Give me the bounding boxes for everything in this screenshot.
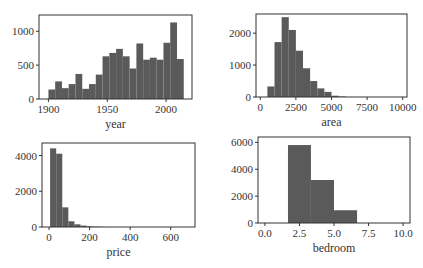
histogram-bar <box>103 56 110 99</box>
subplot-area: 025005000750010000010002000area <box>229 14 417 129</box>
x-tick-label: 400 <box>122 231 139 243</box>
area-bars <box>267 17 345 97</box>
histogram-bar <box>282 17 289 97</box>
x-tick-label: 5.0 <box>327 227 341 239</box>
histogram-bar <box>157 60 164 99</box>
histogram-bar <box>150 58 157 99</box>
histogram-bar <box>116 49 123 99</box>
x-tick-label: 5000 <box>321 101 344 113</box>
x-tick-label: 7500 <box>356 101 379 113</box>
x-tick-label: 200 <box>81 231 98 243</box>
y-tick-label: 4000 <box>15 150 38 162</box>
y-tick-label: 2000 <box>231 190 254 202</box>
histogram-bar <box>267 86 274 97</box>
histogram-bar <box>170 22 177 99</box>
histogram-bar <box>136 43 143 99</box>
histogram-bar <box>288 145 311 223</box>
y-tick-label: 0 <box>248 217 254 229</box>
x-tick-label: 0 <box>46 231 52 243</box>
histogram-bar <box>68 221 74 227</box>
y-tick-label: 0 <box>32 221 38 233</box>
subplot-year: 19001950200005001000year <box>12 15 192 131</box>
y-tick-label: 2000 <box>15 185 38 197</box>
price-x-axis-label: price <box>107 245 131 259</box>
x-tick-label: 0 <box>258 101 264 113</box>
histogram-bar <box>82 89 89 99</box>
histogram-bar <box>317 88 324 97</box>
histogram-bar <box>303 68 310 97</box>
bedroom-bars <box>288 145 357 223</box>
x-tick-label: 2500 <box>285 101 308 113</box>
y-tick-label: 6000 <box>231 136 254 148</box>
histogram-figure: 19001950200005001000year 025005000750010… <box>0 0 423 268</box>
year-x-axis-label: year <box>105 117 126 131</box>
y-tick-label: 2000 <box>229 27 252 39</box>
histogram-bar <box>311 180 334 223</box>
histogram-bar <box>48 90 55 99</box>
x-tick-label: 2000 <box>155 103 178 115</box>
x-tick-label: 1950 <box>96 103 119 115</box>
histogram-bar <box>56 154 62 227</box>
y-tick-label: 500 <box>18 59 35 71</box>
histogram-bar <box>275 42 282 97</box>
histogram-bar <box>296 51 303 97</box>
x-tick-label: 7.5 <box>362 227 376 239</box>
area-x-axis-label: area <box>322 115 343 129</box>
x-tick-label: 1900 <box>37 103 60 115</box>
subplot-price: 0200400600020004000price <box>15 143 195 259</box>
histogram-bar <box>109 53 116 99</box>
year-bars <box>48 22 183 99</box>
histogram-bar <box>62 207 68 227</box>
y-tick-label: 0 <box>29 93 35 105</box>
price-bars <box>50 148 105 227</box>
histogram-bar <box>289 30 296 97</box>
bedroom-x-axis-label: bedroom <box>313 241 356 255</box>
x-tick-label: 0.0 <box>258 227 272 239</box>
subplot-bedroom: 0.02.55.07.510.00200040006000bedroom <box>231 136 413 255</box>
histogram-bar <box>123 56 130 99</box>
x-tick-label: 10000 <box>389 101 417 113</box>
x-tick-label: 10.0 <box>393 227 413 239</box>
histogram-bar <box>75 74 82 99</box>
histogram-bar <box>50 148 56 227</box>
y-tick-label: 1000 <box>229 59 252 71</box>
histogram-bar <box>89 84 96 99</box>
histogram-bar <box>310 81 317 97</box>
histogram-bar <box>69 84 76 99</box>
x-tick-label: 2.5 <box>293 227 307 239</box>
histogram-bar <box>177 59 184 99</box>
y-tick-label: 0 <box>246 91 252 103</box>
x-tick-label: 600 <box>162 231 179 243</box>
y-tick-label: 1000 <box>12 25 35 37</box>
histogram-bar <box>96 75 103 99</box>
histogram-bar <box>163 43 170 99</box>
y-tick-label: 4000 <box>231 163 254 175</box>
histogram-bar <box>62 88 69 99</box>
histogram-bar <box>130 69 137 99</box>
histogram-bar <box>55 81 62 99</box>
histogram-bar <box>334 210 357 223</box>
histogram-bar <box>143 60 150 99</box>
histogram-bar <box>324 92 331 97</box>
